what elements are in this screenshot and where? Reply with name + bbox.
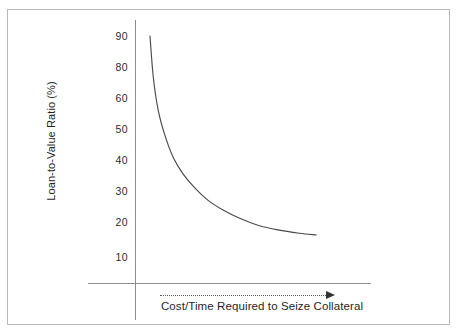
- arrowhead-icon: [326, 291, 335, 299]
- data-curve-svg: [0, 0, 458, 333]
- plot-area: 90 80 60 50 40 30 20 10 Loan-to-Value Ra…: [0, 0, 458, 333]
- loan-to-value-curve: [150, 36, 316, 235]
- x-axis-direction-arrow: [160, 291, 340, 300]
- dotted-line: [160, 295, 326, 297]
- chart-figure: 90 80 60 50 40 30 20 10 Loan-to-Value Ra…: [0, 0, 458, 333]
- x-axis-title: Cost/Time Required to Seize Collateral: [152, 300, 372, 312]
